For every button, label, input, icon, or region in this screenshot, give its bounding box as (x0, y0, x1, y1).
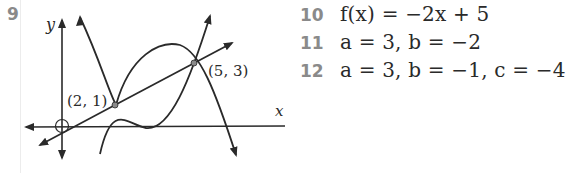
answer-11: a = 3, b = −2 (340, 30, 481, 54)
y-axis-label: y (45, 15, 56, 34)
answer-12: a = 3, b = −1, c = −4 (340, 58, 566, 82)
point-label-5-3: (5, 3) (208, 62, 248, 80)
question-number-11: 11 (300, 33, 324, 53)
downward-parabola (116, 44, 236, 155)
answer-10: f(x) = −2x + 5 (340, 2, 490, 26)
upward-parabola (100, 16, 210, 154)
question-number-12: 12 (300, 61, 324, 81)
arrowhead-parabola-left (76, 15, 84, 26)
point-5-3 (191, 60, 197, 66)
point-label-2-1: (2, 1) (67, 92, 107, 110)
answer-graph: y x (2, 1) (5, 3) (0, 0, 290, 173)
x-axis-label: x (275, 102, 284, 120)
point-2-1 (112, 102, 118, 108)
question-number-10: 10 (300, 5, 324, 25)
